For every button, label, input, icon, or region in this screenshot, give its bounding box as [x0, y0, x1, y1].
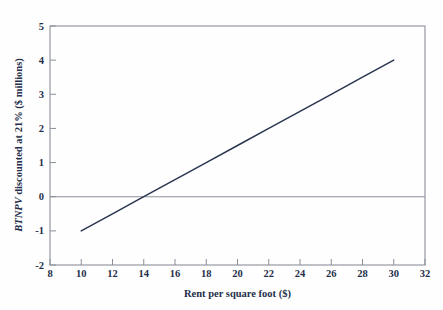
x-axis-title: Rent per square foot ($): [184, 288, 291, 300]
y-tick-label: -2: [35, 260, 44, 271]
y-tick-label: 5: [39, 21, 44, 32]
x-tick-label: 12: [107, 268, 118, 279]
x-tick-label: 22: [264, 268, 275, 279]
x-tick-label: 32: [420, 268, 431, 279]
y-tick-label: 3: [39, 89, 44, 100]
y-tick-label: 2: [39, 123, 44, 134]
x-tick-label: 28: [357, 268, 368, 279]
x-tick-label: 18: [201, 268, 212, 279]
x-tick-label: 10: [76, 268, 87, 279]
line-chart: 8 10 12 14 16 18 20 22 24 26 28 30 32 -2…: [0, 0, 443, 310]
x-tick-label: 8: [47, 268, 52, 279]
y-tick-label: 0: [39, 191, 44, 202]
y-tick-label: 4: [39, 55, 45, 66]
x-tick-label: 16: [170, 268, 181, 279]
y-axis-title: BTNPV discounted at 21% ($ millions): [13, 58, 25, 233]
y-axis-tick-labels: -2 -1 0 1 2 3 4 5: [35, 21, 45, 271]
x-tick-label: 26: [326, 268, 337, 279]
chart-figure: 8 10 12 14 16 18 20 22 24 26 28 30 32 -2…: [0, 0, 443, 310]
y-axis-title-rest: discounted at 21% ($ millions): [13, 58, 25, 198]
y-tick-label: -1: [35, 225, 44, 236]
btnpv-data-line: [81, 60, 394, 231]
x-tick-label: 20: [232, 268, 243, 279]
y-axis-ticks: [50, 26, 56, 265]
x-tick-label: 30: [389, 268, 400, 279]
x-tick-label: 24: [295, 268, 306, 279]
x-axis-ticks: [50, 259, 425, 265]
x-tick-label: 14: [139, 268, 150, 279]
y-axis-title-italic: BTNPV: [13, 196, 24, 232]
x-axis-tick-labels: 8 10 12 14 16 18 20 22 24 26 28 30 32: [47, 268, 430, 279]
y-tick-label: 1: [39, 157, 44, 168]
